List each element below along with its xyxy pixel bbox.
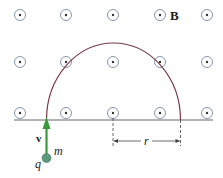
out-of-page-dot-icon — [202, 10, 213, 21]
magnetic-field-diagram: B r v m q — [0, 0, 223, 178]
out-of-page-dot-icon — [155, 10, 166, 21]
radius-label: r — [144, 134, 149, 148]
charge-label: q — [35, 157, 41, 171]
mass-label: m — [54, 144, 63, 158]
out-of-page-dot-icon — [108, 57, 119, 68]
out-of-page-dot-icon — [202, 108, 213, 119]
velocity-arrowhead-icon — [43, 117, 51, 129]
out-of-page-dot-icon — [108, 108, 119, 119]
velocity-label: v — [36, 132, 42, 144]
out-of-page-dot-icon — [155, 108, 166, 119]
field-markers — [15, 10, 213, 119]
out-of-page-dot-icon — [15, 57, 26, 68]
out-of-page-dot-icon — [202, 57, 213, 68]
charged-particle — [42, 154, 51, 163]
out-of-page-dot-icon — [15, 10, 26, 21]
arrowhead-left-icon — [113, 139, 118, 143]
out-of-page-dot-icon — [108, 10, 119, 21]
out-of-page-dot-icon — [155, 57, 166, 68]
field-label: B — [170, 8, 179, 23]
out-of-page-dot-icon — [15, 108, 26, 119]
trajectory-arc — [47, 43, 181, 120]
arrowhead-right-icon — [176, 139, 181, 143]
out-of-page-dot-icon — [61, 10, 72, 21]
out-of-page-dot-icon — [61, 108, 72, 119]
